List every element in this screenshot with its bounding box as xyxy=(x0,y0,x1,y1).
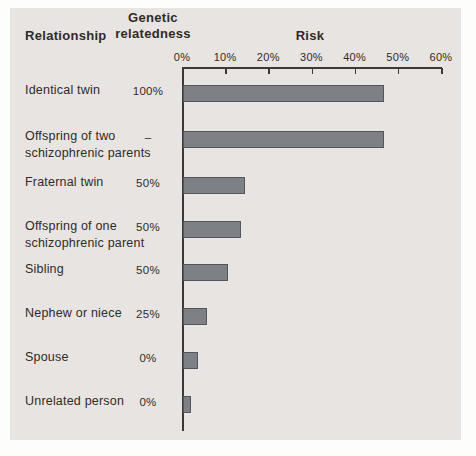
genetic-relatedness-value: 50% xyxy=(118,221,178,233)
genetic-relatedness-value: 0% xyxy=(118,396,178,408)
genetic-relatedness-value: 25% xyxy=(118,308,178,320)
risk-axis-title: Risk xyxy=(270,28,350,43)
axis-tick-label: 50% xyxy=(378,51,418,63)
axis-tick-label: 10% xyxy=(205,51,245,63)
genetic-relatedness-value: 0% xyxy=(118,352,178,364)
relationship-label: Nephew or niece xyxy=(25,306,122,320)
relationship-label: Offspring of one xyxy=(25,219,117,233)
genetic-relatedness-column-header-line1: Genetic xyxy=(103,10,203,25)
risk-bar xyxy=(183,308,207,325)
relationship-label: Identical twin xyxy=(25,83,100,97)
axis-tick-label: 40% xyxy=(335,51,375,63)
risk-bar xyxy=(183,131,384,148)
relationship-label: schizophrenic parent xyxy=(25,236,144,250)
relationship-label: Spouse xyxy=(25,350,69,364)
axis-tick xyxy=(441,68,443,74)
axis-tick xyxy=(355,68,357,74)
genetic-relatedness-value: 100% xyxy=(118,85,178,97)
axis-tick xyxy=(398,68,400,74)
relationship-label: Offspring of two xyxy=(25,129,116,143)
risk-bar xyxy=(183,85,384,102)
genetic-relatedness-value: 50% xyxy=(118,264,178,276)
schizophrenia-risk-figure: Relationship Genetic relatedness Risk 0%… xyxy=(0,0,476,456)
relationship-label: Unrelated person xyxy=(25,394,124,408)
risk-bar xyxy=(183,264,228,281)
risk-bar xyxy=(183,177,245,194)
axis-tick-label: 60% xyxy=(421,51,461,63)
relationship-label: Fraternal twin xyxy=(25,175,104,189)
genetic-relatedness-value: 50% xyxy=(118,177,178,189)
genetic-relatedness-value: – xyxy=(118,131,178,143)
risk-bar xyxy=(183,352,198,369)
axis-tick-label: 30% xyxy=(292,51,332,63)
axis-tick xyxy=(225,68,227,74)
axis-tick xyxy=(268,68,270,74)
relationship-label: schizophrenic parents xyxy=(25,146,151,160)
relationship-column-header: Relationship xyxy=(25,28,107,43)
risk-bar xyxy=(183,396,191,413)
axis-tick-label: 20% xyxy=(248,51,288,63)
genetic-relatedness-column-header-line2: relatedness xyxy=(103,26,203,41)
axis-tick xyxy=(312,68,314,74)
risk-bar xyxy=(183,221,241,238)
relationship-label: Sibling xyxy=(25,262,64,276)
y-axis-line xyxy=(182,67,184,431)
axis-tick-label: 0% xyxy=(162,51,202,63)
